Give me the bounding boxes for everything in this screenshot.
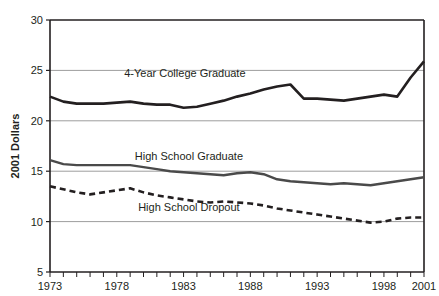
- line-chart: 51015202530 1973197819831988199319982001…: [0, 0, 439, 296]
- y-tick-label-30: 30: [31, 14, 43, 26]
- chart-container: 51015202530 1973197819831988199319982001…: [0, 0, 439, 296]
- x-tick-label-1988: 1988: [238, 280, 262, 292]
- chart-background: [0, 0, 439, 296]
- series-label-2: High School Dropout: [138, 201, 240, 213]
- x-tick-label-1983: 1983: [171, 280, 195, 292]
- y-tick-label-20: 20: [31, 115, 43, 127]
- series-label-0: 4-Year College Graduate: [124, 67, 245, 79]
- y-axis-title: 2001 Dollars: [9, 114, 21, 179]
- y-tick-label-5: 5: [37, 266, 43, 278]
- x-tick-label-1973: 1973: [38, 280, 62, 292]
- x-tick-label-2001: 2001: [412, 280, 436, 292]
- x-tick-label-1998: 1998: [372, 280, 396, 292]
- y-tick-label-15: 15: [31, 165, 43, 177]
- x-tick-label-1993: 1993: [305, 280, 329, 292]
- series-label-1: High School Graduate: [135, 150, 243, 162]
- y-tick-label-25: 25: [31, 64, 43, 76]
- y-tick-label-10: 10: [31, 216, 43, 228]
- x-tick-label-1978: 1978: [105, 280, 129, 292]
